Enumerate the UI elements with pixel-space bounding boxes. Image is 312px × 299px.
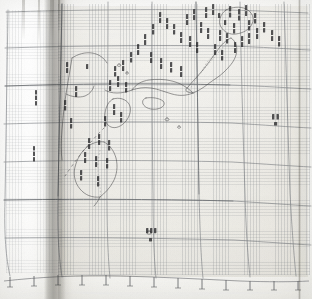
top-streak-3	[50, 0, 54, 52]
top-streak-2	[38, 0, 40, 46]
scanner-shadow-falloff	[58, 0, 72, 299]
fold-crease-right	[298, 0, 301, 299]
top-streak-4	[58, 0, 60, 34]
scanned-map-image: East Asia manuscript map on graph paper …	[0, 0, 312, 299]
top-streak-1	[22, 0, 25, 40]
